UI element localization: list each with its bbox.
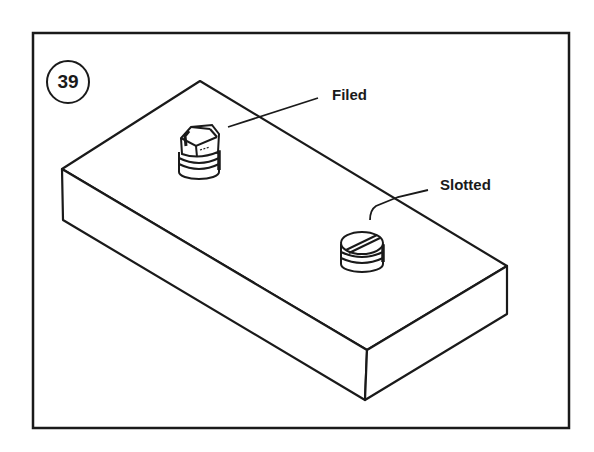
filed-screw-icon [179,125,219,179]
figure-number-badge: 39 [46,60,90,104]
block-icon [62,81,507,400]
figure-drawing [0,0,594,452]
figure-panel: 39 Filed Slotted [0,0,594,452]
slotted-label: Slotted [440,176,491,193]
slotted-screw-icon [341,232,383,272]
filed-label: Filed [332,86,367,103]
